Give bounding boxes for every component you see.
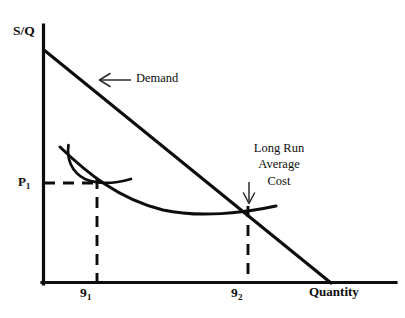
diagram-canvas — [0, 0, 405, 318]
q1-axis-label: 91 — [80, 286, 91, 300]
x-axis-title: Quantity — [309, 285, 359, 298]
price-label-text: P — [18, 174, 26, 189]
lrac-label-line-3: Cost — [238, 173, 320, 189]
demand-arrow-icon — [100, 74, 132, 87]
q2-label-subscript: 2 — [238, 292, 242, 302]
demand-annotation-label: Demand — [136, 72, 178, 85]
price-axis-label: P1 — [18, 175, 30, 188]
price-label-subscript: 1 — [26, 181, 30, 191]
q1-label-subscript: 1 — [87, 292, 91, 302]
q2-label-text: 9 — [231, 285, 238, 300]
lrac-label-line-2: Average — [238, 156, 320, 172]
lrac-annotation-label: Long Run Average Cost — [238, 140, 320, 189]
y-axis-title: S/Q — [13, 24, 35, 38]
economics-diagram: S/Q Quantity P1 91 92 Demand Long Run Av… — [0, 0, 405, 318]
q2-axis-label: 92 — [231, 286, 242, 300]
lrac-label-line-1: Long Run — [238, 140, 320, 156]
q1-label-text: 9 — [80, 285, 87, 300]
